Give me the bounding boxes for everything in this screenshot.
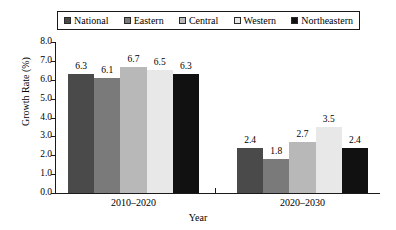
legend-label: Eastern: [134, 16, 164, 26]
y-axis-tick-label: 1.0: [28, 169, 52, 179]
bar[interactable]: [120, 67, 146, 193]
bar-value-label: 6.7: [128, 55, 140, 65]
legend-swatch-icon: [64, 17, 71, 24]
legend-entry[interactable]: Western: [234, 16, 277, 26]
legend-swatch-icon: [179, 17, 186, 24]
y-axis-tick-label: 7.0: [28, 56, 52, 66]
y-axis-tick-mark: [51, 193, 55, 194]
bar[interactable]: [263, 159, 289, 193]
chart-legend: NationalEasternCentralWesternNortheaster…: [57, 11, 360, 30]
bar-value-label: 3.5: [323, 115, 335, 125]
bar[interactable]: [68, 74, 94, 193]
legend-entry[interactable]: Central: [179, 16, 218, 26]
y-axis-tick-label: 0.0: [28, 188, 52, 198]
bar-value-label: 6.1: [101, 66, 113, 76]
chart-screenshot: NationalEasternCentralWesternNortheaster…: [0, 0, 396, 230]
bar-value-label: 6.3: [75, 62, 87, 72]
y-axis-tick-label: 4.0: [28, 113, 52, 123]
y-axis-tick-mark: [51, 42, 55, 43]
y-axis-tick-label: 5.0: [28, 94, 52, 104]
bar[interactable]: [316, 127, 342, 193]
y-axis-tick-mark: [51, 80, 55, 81]
legend-entry[interactable]: Eastern: [124, 16, 164, 26]
legend-label: Northeastern: [301, 16, 353, 26]
x-axis-group-separator-tick: [215, 188, 216, 193]
legend-swatch-icon: [234, 17, 241, 24]
y-axis-tick-label: 6.0: [28, 75, 52, 85]
bar-value-label: 2.4: [349, 136, 361, 146]
bar[interactable]: [94, 78, 120, 193]
y-axis-tick-mark: [51, 99, 55, 100]
y-axis-tick-mark: [51, 155, 55, 156]
plot-area: 6.36.16.76.56.32.41.82.73.52.4: [55, 42, 380, 193]
y-axis-tick-label: 2.0: [28, 151, 52, 161]
bar[interactable]: [147, 70, 173, 193]
legend-swatch-icon: [291, 17, 298, 24]
legend-swatch-icon: [124, 17, 131, 24]
x-axis-category-label: 2020–2030: [280, 197, 325, 208]
bar-value-label: 1.8: [270, 147, 282, 157]
legend-entry[interactable]: National: [64, 16, 108, 26]
y-axis-tick-mark: [51, 61, 55, 62]
bar-value-label: 6.3: [180, 62, 192, 72]
y-axis-tick-label: 8.0: [28, 37, 52, 47]
bar[interactable]: [173, 74, 199, 193]
legend-label: Central: [189, 16, 218, 26]
x-axis-line: [55, 193, 380, 194]
bar-value-label: 6.5: [154, 58, 166, 68]
x-axis-title: Year: [0, 212, 396, 223]
y-axis-tick-labels: 0.01.02.03.04.05.06.07.08.0: [24, 0, 52, 230]
y-axis-tick-label: 3.0: [28, 132, 52, 142]
y-axis-tick-mark: [51, 174, 55, 175]
y-axis-tick-mark: [51, 136, 55, 137]
legend-label: National: [74, 16, 108, 26]
bar-value-label: 2.7: [297, 130, 309, 140]
legend-label: Western: [244, 16, 277, 26]
y-axis-tick-mark: [51, 118, 55, 119]
x-axis-category-label: 2010–2020: [111, 197, 156, 208]
bar-value-label: 2.4: [244, 136, 256, 146]
bar[interactable]: [289, 142, 315, 193]
bar[interactable]: [342, 148, 368, 193]
bar[interactable]: [237, 148, 263, 193]
legend-entry[interactable]: Northeastern: [291, 16, 353, 26]
